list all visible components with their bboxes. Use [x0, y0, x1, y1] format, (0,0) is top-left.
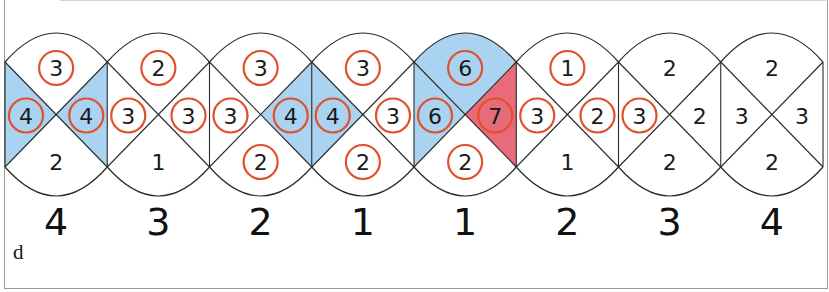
- left-value: 4: [326, 104, 340, 129]
- left-value: 3: [735, 104, 749, 129]
- right-value: 3: [795, 104, 809, 129]
- bottom-number: 2: [231, 203, 291, 241]
- right-value: 3: [182, 104, 196, 129]
- diamond-lattice-diagram: 34422331334234326672132123222332: [0, 0, 829, 292]
- right-value: 4: [79, 104, 93, 129]
- left-value: 3: [530, 104, 544, 129]
- right-value: 2: [591, 104, 605, 129]
- bottom-value: 2: [765, 150, 779, 175]
- bottom-value: 1: [560, 150, 574, 175]
- right-value: 2: [693, 104, 707, 129]
- top-value: 2: [765, 56, 779, 81]
- left-value: 3: [633, 104, 647, 129]
- bottom-number: 3: [640, 203, 700, 241]
- bottom-number: 1: [333, 203, 393, 241]
- bottom-number: 4: [26, 203, 86, 241]
- top-value: 2: [151, 56, 165, 81]
- bottom-number: 4: [742, 203, 802, 241]
- top-value: 2: [663, 56, 677, 81]
- left-value: 4: [19, 104, 33, 129]
- bottom-number: 1: [435, 203, 495, 241]
- bottom-value: 2: [356, 150, 370, 175]
- bottom-number: 2: [537, 203, 597, 241]
- top-value: 1: [560, 56, 574, 81]
- bottom-value: 2: [458, 150, 472, 175]
- top-value: 6: [458, 56, 472, 81]
- right-value: 4: [284, 104, 298, 129]
- top-value: 3: [254, 56, 268, 81]
- left-value: 3: [224, 104, 238, 129]
- bottom-number: 3: [128, 203, 188, 241]
- bottom-value: 2: [254, 150, 268, 175]
- top-value: 3: [356, 56, 370, 81]
- figure-label: d: [13, 240, 24, 265]
- left-value: 3: [121, 104, 135, 129]
- bottom-value: 2: [49, 150, 63, 175]
- bottom-value: 1: [151, 150, 165, 175]
- right-value: 7: [488, 104, 502, 129]
- right-value: 3: [386, 104, 400, 129]
- top-value: 3: [49, 56, 63, 81]
- left-value: 6: [428, 104, 442, 129]
- bottom-value: 2: [663, 150, 677, 175]
